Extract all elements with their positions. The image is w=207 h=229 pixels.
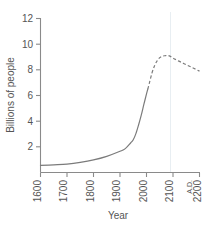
y-tick-label-4: 4 xyxy=(27,116,33,127)
y-axis-title: Billions of people xyxy=(5,57,16,133)
x-tick-label-1600: 1600 xyxy=(32,180,43,203)
y-tick-label-8: 8 xyxy=(27,64,33,75)
historical-population-line xyxy=(41,89,148,165)
era-label-ad: A.D. xyxy=(186,180,193,194)
y-tick-label-10: 10 xyxy=(22,39,34,50)
x-tick-label-1800: 1800 xyxy=(85,180,96,203)
x-tick-label-2000: 2000 xyxy=(138,180,149,203)
x-tick-label-2100: 2100 xyxy=(164,180,175,203)
x-tick-label-1700: 1700 xyxy=(58,180,69,203)
y-tick-label-12: 12 xyxy=(22,13,34,24)
y-tick-label-2: 2 xyxy=(27,141,33,152)
projected-population-line xyxy=(148,55,200,89)
x-axis-ticks xyxy=(41,173,200,178)
y-axis-ticks xyxy=(36,19,41,147)
chart-canvas: 12 10 8 6 4 2 1600 1700 1800 1900 2000 2… xyxy=(0,0,207,229)
x-tick-label-2200: 2200 xyxy=(192,180,203,203)
x-tick-label-1900: 1900 xyxy=(111,180,122,203)
x-axis-title: Year xyxy=(108,210,129,221)
population-growth-chart: 12 10 8 6 4 2 1600 1700 1800 1900 2000 2… xyxy=(0,0,207,229)
y-axis-tick-labels: 12 10 8 6 4 2 xyxy=(22,13,34,152)
y-tick-label-6: 6 xyxy=(27,90,33,101)
x-axis-tick-labels: 1600 1700 1800 1900 2000 2100 2200 A.D. xyxy=(32,180,203,203)
